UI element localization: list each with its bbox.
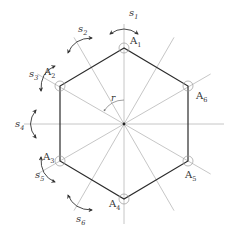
vertex-label-a4: A4 bbox=[108, 198, 120, 212]
rotation-label: r bbox=[111, 93, 116, 103]
axis-label-s3: s3 bbox=[29, 68, 38, 82]
axis-label-s4: s4 bbox=[15, 118, 24, 132]
vertex-label-a6: A6 bbox=[195, 90, 207, 104]
vertex-label-a1: A1 bbox=[129, 35, 141, 49]
axis-label-s2: s2 bbox=[78, 23, 87, 37]
vertex-label-a5: A5 bbox=[184, 169, 196, 183]
center-point bbox=[123, 123, 126, 126]
reflection-arrow-s2-icon bbox=[68, 38, 92, 53]
reflection-arrows bbox=[31, 29, 139, 210]
hexagon-symmetry-diagram: r A1A2A3A4A5A6 s1s2s3s4s5s6 bbox=[0, 0, 236, 233]
vertex-label-a3: A3 bbox=[42, 151, 54, 165]
axis-label-s1: s1 bbox=[129, 7, 138, 21]
vertex-label-a2: A2 bbox=[43, 66, 55, 80]
reflection-arrow-s6-icon bbox=[68, 195, 92, 210]
axis-label-s6: s6 bbox=[76, 213, 85, 227]
